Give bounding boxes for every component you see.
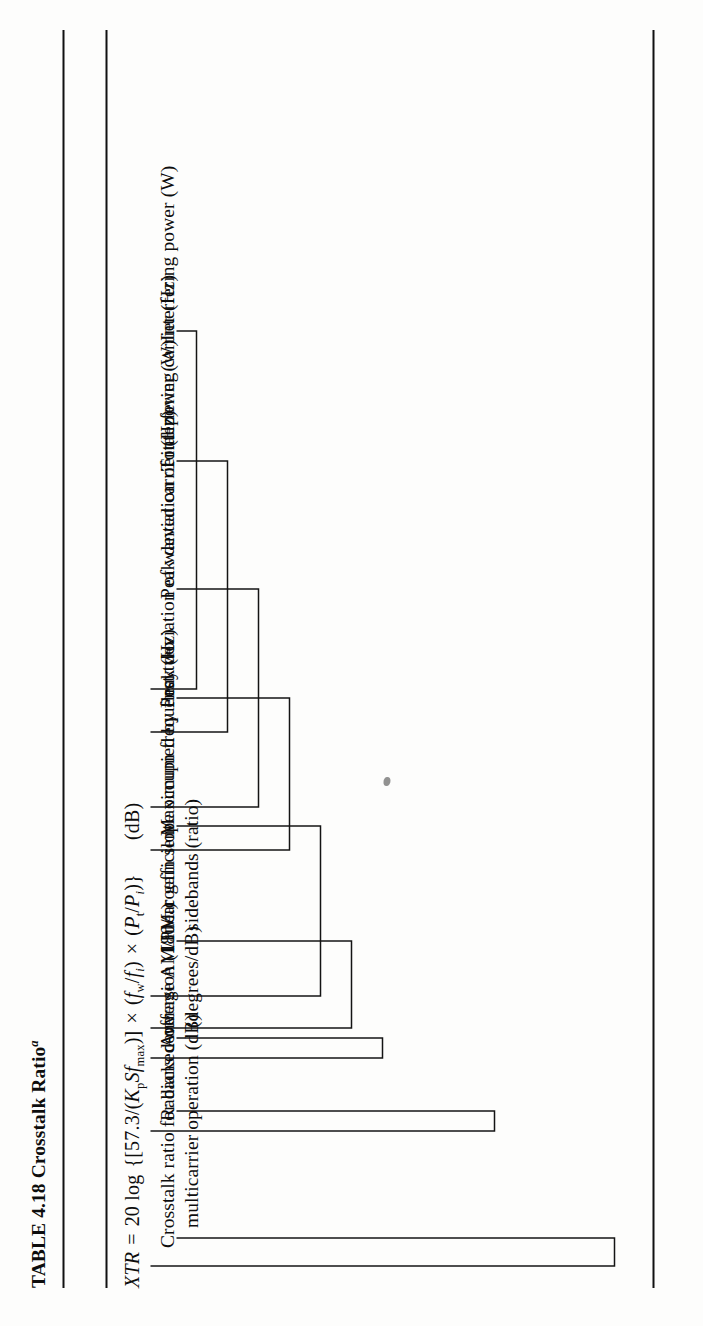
scan-speck (383, 777, 390, 786)
callout-crosstalk-ratio-line1: Crosstalk ratio for backed-off (156, 1014, 177, 1248)
table-page: TABLE 4.18 Crosstalk Ratioa XTR=20 log{[… (0, 0, 703, 1326)
callout-crosstalk-ratio-line2: multicarrier operation (dB) (179, 1014, 203, 1248)
scanned-page-screenshot: TABLE 4.18 Crosstalk Ratioa XTR=20 log{[… (0, 0, 703, 1326)
leader-lines (0, 0, 703, 1326)
callout-crosstalk-ratio: Crosstalk ratio for backed-off multicarr… (155, 1014, 203, 1248)
leader-line-crosstalk-ratio (150, 1238, 614, 1266)
